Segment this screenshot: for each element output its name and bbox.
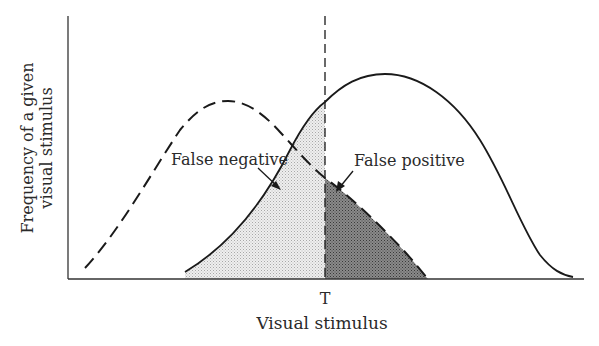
- x-axis-label: Visual stimulus: [255, 313, 387, 333]
- false-positive-label: False positive: [354, 151, 465, 170]
- false-positive-region: [325, 178, 428, 279]
- threshold-label: T: [320, 289, 331, 308]
- false-positive-arrow: [336, 171, 353, 192]
- signal-detection-diagram: False negative False positive T Visual s…: [0, 0, 599, 346]
- y-axis-label-line2: visual stimulus: [37, 87, 56, 209]
- false-negative-region: [185, 102, 325, 279]
- false-negative-label: False negative: [171, 150, 288, 169]
- y-axis-label-line1: Frequency of a given: [18, 62, 37, 233]
